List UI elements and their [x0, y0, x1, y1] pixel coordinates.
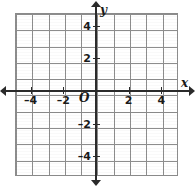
- x-axis-tick: [129, 87, 130, 94]
- y-axis-tick: [93, 58, 100, 59]
- y-axis-tick-label: –4: [72, 151, 91, 162]
- y-axis-tick-label: –2: [72, 118, 91, 129]
- x-axis-tick: [31, 87, 32, 94]
- y-axis-name-label: y: [100, 4, 107, 16]
- x-axis-tick: [161, 87, 162, 94]
- coordinate-plane-figure: –4–22442–2–4 O x y: [0, 0, 195, 187]
- y-axis-tick-label: 4: [72, 20, 91, 31]
- x-axis-right-arrow-icon: [189, 86, 195, 96]
- x-axis-tick-label: 2: [125, 95, 133, 106]
- x-axis-tick-label: –4: [24, 95, 37, 106]
- x-axis-tick-label: 4: [157, 95, 165, 106]
- y-axis-line: [95, 6, 97, 181]
- x-axis-tick-label: –2: [57, 95, 70, 106]
- y-axis-tick-label: 2: [72, 53, 91, 64]
- x-axis-left-arrow-icon: [0, 86, 6, 96]
- y-axis-down-arrow-icon: [91, 180, 101, 186]
- y-axis-tick: [93, 156, 100, 157]
- y-axis-tick: [93, 26, 100, 27]
- origin-label: O: [79, 92, 89, 104]
- y-axis-tick: [93, 124, 100, 125]
- x-axis-tick: [63, 87, 64, 94]
- x-axis-name-label: x: [181, 77, 188, 89]
